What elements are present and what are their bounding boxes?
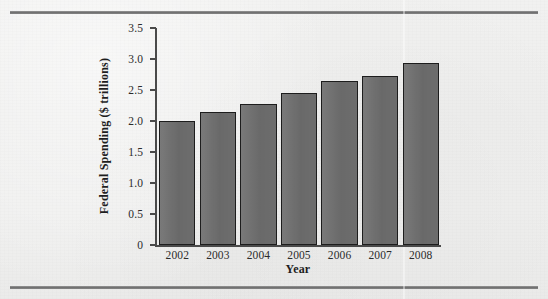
bar-slot	[240, 28, 276, 245]
y-axis-tick-label: 0.5	[128, 208, 143, 220]
x-axis-tick-label: 2008	[409, 249, 432, 261]
y-axis-tick: 0.5	[150, 213, 156, 215]
y-axis-tick: 0	[150, 244, 156, 246]
x-axis-line	[155, 245, 441, 247]
y-axis-tick-label: 1.0	[128, 177, 143, 189]
bar-slot	[200, 28, 236, 245]
y-axis-tick: 2.5	[150, 89, 156, 91]
bottom-divider-rule	[10, 286, 538, 289]
y-axis-tick: 2.0	[150, 120, 156, 122]
bar	[200, 112, 236, 245]
bar-slot	[362, 28, 398, 245]
y-axis-tick: 1.0	[150, 182, 156, 184]
bar-slot	[281, 28, 317, 245]
bar	[159, 121, 195, 245]
bar	[362, 76, 398, 245]
y-axis-tick: 1.5	[150, 151, 156, 153]
y-axis-tick-label: 0	[137, 239, 143, 251]
bar	[321, 81, 357, 245]
y-axis-tick-label: 2.0	[128, 115, 143, 127]
x-axis-tick-label: 2003	[206, 249, 229, 261]
x-axis-tick-label: 2006	[328, 249, 351, 261]
x-axis-title: Year	[155, 262, 441, 277]
top-divider-rule	[10, 11, 538, 14]
y-axis-tick: 3.5	[150, 27, 156, 29]
y-axis-tick-label: 1.5	[128, 146, 143, 158]
bar-slot	[403, 28, 439, 245]
bar	[240, 104, 276, 245]
y-axis-tick: 3.0	[150, 58, 156, 60]
x-axis-tick-label: 2002	[166, 249, 189, 261]
y-axis-tick-label: 2.5	[128, 84, 143, 96]
y-axis-tick-label: 3.5	[128, 22, 143, 34]
bar-slot	[159, 28, 195, 245]
bar	[281, 93, 317, 245]
bar-slot	[321, 28, 357, 245]
plot-area: 00.51.01.52.02.53.03.5 20022003200420052…	[155, 28, 440, 245]
y-axis-tick-label: 3.0	[128, 53, 143, 65]
bar-group	[157, 28, 441, 245]
y-axis-title: Federal Spending ($ trillions)	[97, 58, 112, 214]
figure-page: Federal Spending ($ trillions) 00.51.01.…	[0, 0, 548, 299]
x-axis-tick-label: 2005	[287, 249, 310, 261]
bar	[403, 63, 439, 245]
x-axis-tick-label: 2007	[368, 249, 391, 261]
x-axis-tick-label: 2004	[247, 249, 270, 261]
